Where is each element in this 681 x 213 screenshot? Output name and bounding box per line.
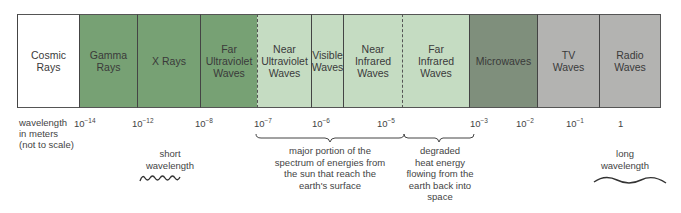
tick-1e-6: 10−6 xyxy=(312,117,330,129)
tick-exponent: −12 xyxy=(143,117,154,124)
band-label: TV Waves xyxy=(553,49,585,73)
tick-1e-5: 10−5 xyxy=(377,117,395,129)
tick-1e-7: 10−7 xyxy=(254,117,272,129)
short-wavelength-note: short wavelength xyxy=(135,148,205,171)
tick-base: 10 xyxy=(132,118,143,129)
tick-1e-3: 10−3 xyxy=(470,117,488,129)
band-near-ultraviolet: Near Ultraviolet Waves xyxy=(257,14,311,108)
tick-base: 1 xyxy=(618,118,623,129)
tick-1e-8: 10−8 xyxy=(195,117,213,129)
axis-label: wavelength in meters (not to scale) xyxy=(19,117,74,150)
tick-base: 10 xyxy=(377,118,388,129)
band-label: Near Ultraviolet Waves xyxy=(261,43,308,79)
band-far-infrared: Far Infrared Waves xyxy=(402,14,469,108)
tick-exponent: −14 xyxy=(85,117,96,124)
tick-1e-14: 10−14 xyxy=(74,117,96,129)
band-far-ultraviolet: Far Ultraviolet Waves xyxy=(200,14,257,108)
heat-energy-note: degraded heat energy flowing from the ea… xyxy=(400,145,480,203)
curly-brace-icon xyxy=(403,133,475,143)
tick-exponent: −1 xyxy=(577,117,584,124)
tick-exponent: −2 xyxy=(527,117,534,124)
band-label: Microwaves xyxy=(476,55,531,67)
tick-1e-12: 10−12 xyxy=(132,117,154,129)
tick-exponent: −3 xyxy=(481,117,488,124)
solar-spectrum-note: major portion of the spectrum of energie… xyxy=(255,145,405,191)
long-wave-curve-icon xyxy=(593,174,667,186)
band-visible: Visible Waves xyxy=(311,14,343,108)
band-label: Far Infrared Waves xyxy=(418,43,454,79)
band-cosmic-rays: Cosmic Rays xyxy=(17,14,79,108)
tick-base: 10 xyxy=(254,118,265,129)
tick-exponent: −8 xyxy=(206,117,213,124)
tick-1e-2: 10−2 xyxy=(516,117,534,129)
tick-base: 10 xyxy=(312,118,323,129)
band-tv-waves: TV Waves xyxy=(537,14,599,108)
tick-exponent: −6 xyxy=(323,117,330,124)
band-microwaves: Microwaves xyxy=(469,14,537,108)
band-label: Radio Waves xyxy=(614,49,646,73)
band-label: Near Infrared Waves xyxy=(355,43,391,79)
tick-1e-1: 10−1 xyxy=(566,117,584,129)
tick-base: 10 xyxy=(74,118,85,129)
band-x-rays: X Rays xyxy=(137,14,200,108)
band-label: Visible Waves xyxy=(312,49,344,73)
tick-exponent: −7 xyxy=(265,117,272,124)
short-wave-squiggle-icon xyxy=(139,173,183,183)
band-near-infrared: Near Infrared Waves xyxy=(343,14,402,108)
tick-base: 10 xyxy=(470,118,481,129)
tick-base: 10 xyxy=(195,118,206,129)
tick-base: 10 xyxy=(516,118,527,129)
tick-base: 10 xyxy=(566,118,577,129)
tick-exponent: −5 xyxy=(388,117,395,124)
band-radio-waves: Radio Waves xyxy=(599,14,661,108)
band-label: X Rays xyxy=(152,55,186,67)
curly-brace-icon xyxy=(255,133,405,143)
band-label: Cosmic Rays xyxy=(31,49,66,73)
band-gamma-rays: Gamma Rays xyxy=(79,14,137,108)
long-wavelength-note: long wavelength xyxy=(590,148,660,171)
tick-1: 1 xyxy=(618,117,623,129)
band-label: Far Ultraviolet Waves xyxy=(206,43,253,79)
band-label: Gamma Rays xyxy=(90,49,127,73)
